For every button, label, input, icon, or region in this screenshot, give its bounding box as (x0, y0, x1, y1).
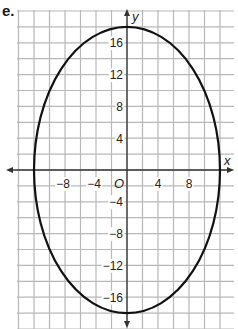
x-tick-label: 8 (186, 177, 193, 191)
y-tick-label: −8 (109, 227, 123, 241)
x-tick-label: −4 (87, 177, 101, 191)
x-tick-label: −8 (56, 177, 70, 191)
x-tick-label: 4 (155, 177, 162, 191)
y-tick-label: 12 (110, 68, 124, 82)
y-tick-label: −16 (103, 291, 124, 305)
origin-label: O (114, 176, 124, 191)
y-tick-label: 4 (116, 132, 123, 146)
x-axis-left-arrow-icon (6, 167, 13, 173)
y-tick-label: 16 (110, 36, 124, 50)
y-axis-up-arrow-icon (124, 9, 130, 16)
y-axis-down-arrow-icon (124, 321, 130, 328)
y-tick-label: −4 (109, 195, 123, 209)
ellipse-graph: xyO −8−448161284−4−8−12−16 (0, 0, 238, 329)
y-tick-label: −12 (103, 259, 124, 273)
y-tick-label: 8 (116, 100, 123, 114)
axes: xyO (6, 9, 234, 328)
x-axis-label: x (223, 153, 231, 168)
